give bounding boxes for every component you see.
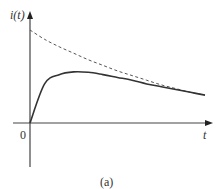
y-axis-arrow-icon: [27, 11, 33, 19]
x-axis-arrow-icon: [205, 120, 213, 126]
y-axis-label: i(t): [10, 9, 25, 21]
response-curve: [30, 72, 205, 123]
origin-label: 0: [20, 129, 26, 141]
plot-canvas: [0, 0, 222, 189]
x-axis-label: t: [203, 129, 206, 141]
envelope-curve: [30, 30, 205, 95]
figure-caption: (a): [100, 176, 113, 188]
